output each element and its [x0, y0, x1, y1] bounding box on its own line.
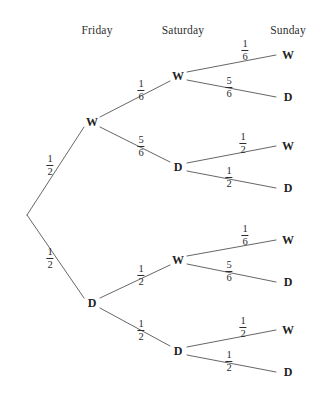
probability-fraction-b-sd2-d: 12 [225, 349, 232, 373]
tree-node-l2: D [284, 91, 293, 103]
probability-fraction-b-sw1-d: 56 [225, 75, 232, 99]
tree-node-l3: W [282, 140, 294, 152]
probability-fraction-b-fw-sd: 56 [137, 134, 144, 158]
fraction-denominator: 6 [137, 147, 144, 158]
fraction-numerator: 5 [225, 259, 232, 270]
branch-line-b-sd1-w [187, 146, 276, 163]
probability-fraction-b-sw2-w: 16 [241, 223, 248, 247]
fraction-numerator: 1 [241, 223, 248, 234]
fraction-numerator: 1 [241, 38, 248, 49]
fraction-denominator: 2 [46, 259, 53, 270]
fraction-denominator: 2 [239, 144, 246, 155]
branch-line-b-fw-sd [100, 127, 170, 162]
fraction-numerator: 1 [225, 165, 232, 176]
fraction-numerator: 1 [46, 246, 53, 257]
fraction-denominator: 2 [137, 331, 144, 342]
fraction-numerator: 1 [137, 263, 144, 274]
branch-line-b-fd-sd [100, 308, 170, 346]
branch-line-b-root-w [27, 127, 84, 215]
branch-line-b-sd2-w [187, 330, 276, 347]
branch-line-b-sw1-w [187, 55, 276, 72]
column-header-saturday: Saturday [162, 24, 204, 36]
tree-branch-lines [0, 0, 325, 406]
probability-tree-diagram: FridaySaturdaySunday WDWDWDWDWDWDWD 1212… [0, 0, 325, 406]
fraction-numerator: 1 [239, 131, 246, 142]
fraction-denominator: 6 [241, 236, 248, 247]
tree-node-l5: W [282, 234, 294, 246]
tree-node-l1: W [282, 49, 294, 61]
tree-node-f-d-s-d: D [174, 345, 183, 357]
fraction-denominator: 2 [225, 178, 232, 189]
fraction-numerator: 1 [137, 78, 144, 89]
tree-node-f-w: W [86, 116, 98, 128]
fraction-denominator: 2 [137, 276, 144, 287]
fraction-numerator: 1 [225, 349, 232, 360]
fraction-denominator: 6 [137, 91, 144, 102]
tree-node-l8: D [284, 366, 293, 378]
fraction-denominator: 2 [225, 362, 232, 373]
column-header-sunday: Sunday [270, 24, 306, 36]
probability-fraction-b-root-d: 12 [46, 246, 53, 270]
branch-line-b-fd-sw [100, 265, 170, 298]
fraction-numerator: 1 [46, 153, 53, 164]
tree-node-l4: D [284, 182, 293, 194]
tree-node-l6: D [284, 276, 293, 288]
probability-fraction-b-sd2-w: 12 [239, 315, 246, 339]
fraction-denominator: 2 [239, 328, 246, 339]
fraction-denominator: 6 [225, 272, 232, 283]
column-header-friday: Friday [81, 24, 112, 36]
probability-fraction-b-sw1-w: 16 [241, 38, 248, 62]
probability-fraction-b-sd1-w: 12 [239, 131, 246, 155]
fraction-denominator: 2 [46, 166, 53, 177]
fraction-denominator: 6 [241, 51, 248, 62]
branch-line-b-root-d [27, 215, 84, 298]
fraction-numerator: 1 [239, 315, 246, 326]
tree-node-f-d-s-w: W [172, 254, 184, 266]
tree-node-f-w-s-d: D [174, 161, 183, 173]
probability-fraction-b-fd-sw: 12 [137, 263, 144, 287]
fraction-denominator: 6 [225, 88, 232, 99]
probability-fraction-b-sw2-d: 56 [225, 259, 232, 283]
tree-node-l7: W [282, 324, 294, 336]
fraction-numerator: 5 [137, 134, 144, 145]
probability-fraction-b-fd-sd: 12 [137, 318, 144, 342]
probability-fraction-b-root-w: 12 [46, 153, 53, 177]
branch-line-b-fw-sw [100, 81, 170, 117]
fraction-numerator: 1 [137, 318, 144, 329]
probability-fraction-b-fw-sw: 16 [137, 78, 144, 102]
fraction-numerator: 5 [225, 75, 232, 86]
probability-fraction-b-sd1-d: 12 [225, 165, 232, 189]
branch-line-b-sw2-w [187, 240, 276, 256]
tree-node-f-w-s-w: W [172, 70, 184, 82]
tree-node-f-d: D [88, 297, 97, 309]
